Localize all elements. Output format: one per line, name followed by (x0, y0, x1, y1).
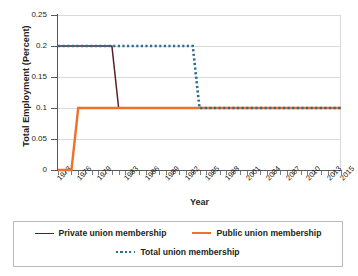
series-layer (0, 0, 358, 212)
series-total-union-membership (58, 46, 341, 108)
legend-label-total: Total union membership (140, 247, 239, 257)
legend-swatch-icon-private (35, 233, 54, 234)
legend-swatch-icon-public (192, 232, 211, 234)
legend-item-total-union-membership[interactable]: Total union membership (116, 247, 239, 257)
legend-label-public: Public union membership (216, 228, 321, 238)
legend-swatch-icon-total (116, 251, 135, 253)
chart-legend: Private union membership Public union me… (13, 221, 343, 267)
series-private-union-membership (58, 46, 341, 108)
x-axis-title: Year (58, 197, 341, 207)
legend-item-private-union-membership[interactable]: Private union membership (35, 228, 167, 238)
chart-figure: Total Employment (Percent) 0.25 0.2 0.15… (0, 0, 358, 276)
legend-item-public-union-membership[interactable]: Public union membership (192, 228, 321, 238)
series-public-union-membership (58, 108, 341, 170)
legend-row-2: Total union membership (14, 247, 342, 257)
chart-plot-container: Total Employment (Percent) 0.25 0.2 0.15… (0, 0, 358, 212)
legend-row-1: Private union membership Public union me… (14, 228, 342, 238)
legend-label-private: Private union membership (59, 228, 167, 238)
